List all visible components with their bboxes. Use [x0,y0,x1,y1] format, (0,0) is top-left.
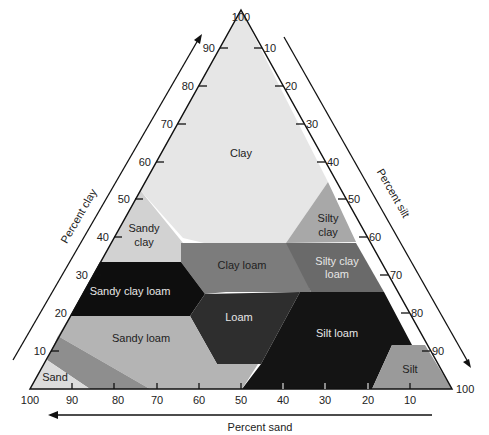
svg-text:90: 90 [66,394,78,406]
label-silt-loam: Silt loam [316,327,358,339]
clay-axis-title: Percent clay [58,186,99,245]
label-sandy-clay-1: Sandy [128,222,160,234]
label-sandy-clay-loam: Sandy clay loam [90,285,171,297]
sand-axis-arrow [48,411,432,419]
svg-text:80: 80 [182,80,194,92]
svg-text:100: 100 [232,11,250,23]
sand-tick-labels: 100 90 80 70 60 50 40 30 20 10 [21,394,416,406]
svg-text:100: 100 [456,383,474,395]
svg-text:30: 30 [76,269,88,281]
svg-text:90: 90 [203,42,215,54]
svg-text:80: 80 [112,394,124,406]
soil-texture-triangle: 10 20 30 40 50 60 70 80 90 100 10 20 30 … [0,0,489,435]
label-silty-clay-1: Silty [318,212,339,224]
svg-text:30: 30 [319,394,331,406]
svg-text:70: 70 [390,269,402,281]
svg-text:100: 100 [21,394,39,406]
svg-text:90: 90 [432,345,444,357]
arrow-head-icon [194,34,202,44]
svg-text:60: 60 [369,231,381,243]
arrow-head-icon [48,411,58,419]
svg-text:10: 10 [34,345,46,357]
label-sand: Sand [42,371,68,383]
arrow-head-icon [463,359,471,368]
svg-text:80: 80 [411,307,423,319]
label-silty-clay-loam-2: loam [325,268,349,280]
label-silty-clay-2: clay [318,226,338,238]
svg-text:60: 60 [139,156,151,168]
label-silt: Silt [402,363,417,375]
label-sandy-loam: Sandy loam [112,332,170,344]
svg-text:60: 60 [193,394,205,406]
svg-text:50: 50 [235,394,247,406]
svg-text:20: 20 [55,307,67,319]
svg-text:40: 40 [327,156,339,168]
svg-text:30: 30 [306,118,318,130]
silt-axis-title: Percent silt [375,166,413,219]
svg-text:20: 20 [362,394,374,406]
svg-text:70: 70 [161,118,173,130]
sand-axis-title: Percent sand [228,421,293,433]
svg-text:50: 50 [118,193,130,205]
svg-text:40: 40 [97,231,109,243]
svg-text:70: 70 [151,394,163,406]
label-silty-clay-loam-1: Silty clay [315,255,359,267]
svg-text:20: 20 [285,80,297,92]
label-sandy-clay-2: clay [134,236,154,248]
svg-text:10: 10 [404,394,416,406]
svg-text:10: 10 [264,42,276,54]
svg-text:40: 40 [277,394,289,406]
label-clay: Clay [230,147,253,159]
svg-text:50: 50 [348,193,360,205]
label-clay-loam: Clay loam [218,259,267,271]
label-loam: Loam [225,311,253,323]
